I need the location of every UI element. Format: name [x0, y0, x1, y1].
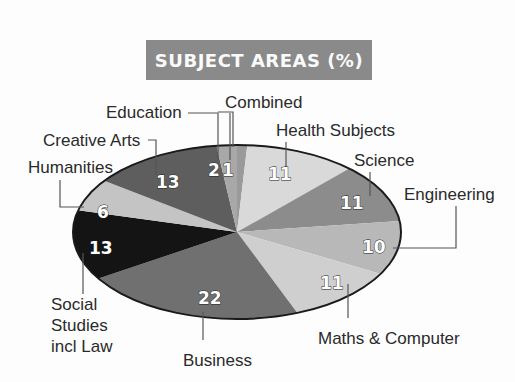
- leader-engineering: [393, 206, 456, 248]
- value-health-subjects: 11: [268, 164, 292, 184]
- label-engineering: Engineering: [404, 185, 495, 204]
- value-education: 2: [208, 160, 220, 180]
- value-engineering: 10: [362, 237, 386, 257]
- value-creative-arts: 13: [156, 172, 180, 192]
- label-maths-computer: Maths & Computer: [318, 329, 460, 348]
- label-social-3: incl Law: [51, 337, 113, 356]
- pie-slices: [73, 145, 401, 319]
- value-maths-computer: 11: [320, 273, 344, 293]
- value-social-studies: 13: [89, 238, 113, 258]
- label-social-2: Studies: [51, 316, 108, 335]
- label-education: Education: [106, 103, 182, 122]
- value-science: 11: [340, 193, 364, 213]
- value-combined: 1: [222, 160, 234, 180]
- leader-combined: [218, 112, 233, 147]
- label-health-subjects: Health Subjects: [276, 121, 395, 140]
- label-social-1: Social: [51, 295, 97, 314]
- label-creative-arts: Creative Arts: [43, 131, 140, 150]
- value-humanities: 6: [97, 202, 109, 222]
- label-science: Science: [354, 151, 414, 170]
- label-business: Business: [183, 351, 252, 370]
- label-combined: Combined: [225, 93, 303, 112]
- label-humanities: Humanities: [28, 158, 113, 177]
- leader-humanities: [60, 180, 84, 207]
- value-business: 22: [198, 288, 222, 308]
- pie-chart: Combined Education Creative Arts Humanit…: [0, 0, 515, 382]
